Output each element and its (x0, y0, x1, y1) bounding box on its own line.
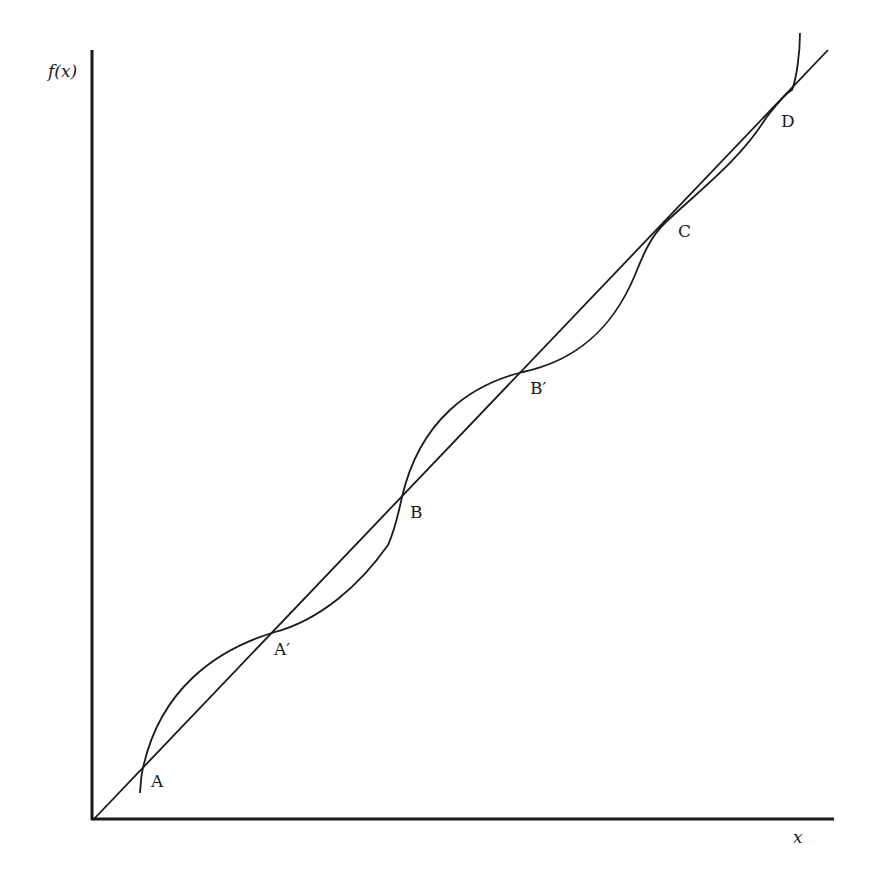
point-label-d: D (781, 111, 795, 131)
diagram-canvas: f(x) x A A′ B B′ C D (0, 0, 878, 871)
fx-curve (140, 33, 800, 793)
point-label-b-prime: B′ (530, 378, 546, 398)
point-label-b: B (410, 502, 423, 522)
y-axis-label: f(x) (46, 61, 77, 81)
point-label-a: A (150, 771, 164, 791)
x-axis-label: x (793, 827, 803, 847)
point-label-a-prime: A′ (273, 639, 290, 659)
diagonal-line (93, 50, 828, 820)
point-label-c: C (678, 221, 691, 241)
